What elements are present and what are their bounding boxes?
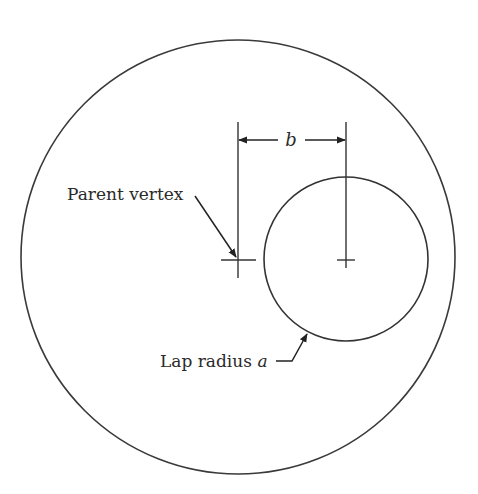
lap-radius-leader xyxy=(276,334,307,361)
dimension-b-label: b xyxy=(285,129,297,150)
lap-radius-variable: a xyxy=(257,351,267,371)
parent-vertex-leader xyxy=(195,196,236,257)
parent-vertex-label: Parent vertex xyxy=(67,184,184,204)
lap-radius-label: Lap radius a xyxy=(160,351,268,371)
lap-geometry-diagram: b Parent vertex Lap radius a xyxy=(0,0,478,494)
lap-radius-text: Lap radius xyxy=(160,351,257,371)
